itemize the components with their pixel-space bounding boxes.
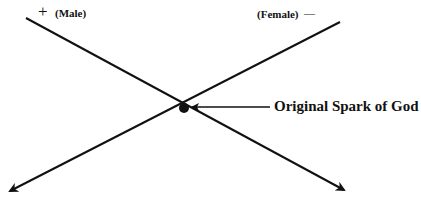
center-point	[179, 103, 189, 113]
diagram-canvas: + (Male) (Female) — Original Spark of Go…	[0, 0, 421, 216]
male-label: (Male)	[55, 7, 86, 19]
male-sign: +	[38, 2, 48, 22]
female-label: (Female)	[257, 8, 299, 20]
center-label: Original Spark of God	[274, 98, 419, 115]
female-sign: —	[304, 7, 315, 19]
